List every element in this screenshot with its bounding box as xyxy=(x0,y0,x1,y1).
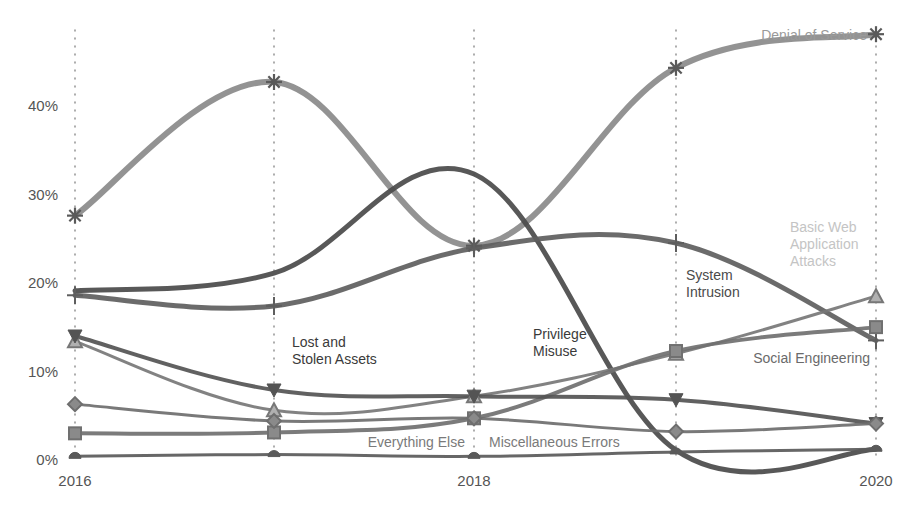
y-tick-label: 20% xyxy=(28,274,58,291)
diamond-marker-icon xyxy=(669,425,683,439)
asterisk-marker-icon xyxy=(868,26,884,42)
circle-marker-icon xyxy=(268,451,280,457)
triangle-marker-icon xyxy=(869,289,883,302)
y-tick-label: 30% xyxy=(28,186,58,203)
series-label-miscellaneous-errors: Miscellaneous Errors xyxy=(489,434,620,450)
series-line-denial-of-service xyxy=(75,34,876,246)
x-tick-label: 2018 xyxy=(457,472,490,489)
series-label-lost-and-stolen-assets: Lost andStolen Assets xyxy=(292,334,377,367)
series-lines xyxy=(75,34,876,472)
x-axis: 201620182020 xyxy=(58,472,892,489)
circle-marker-icon xyxy=(870,445,882,451)
cross-marker-icon xyxy=(466,239,482,257)
line-chart: 0%10%20%30%40% 201620182020 Denial of Se… xyxy=(0,0,918,514)
cross-marker-icon xyxy=(266,297,282,315)
series-markers xyxy=(67,26,884,458)
square-marker-icon xyxy=(69,427,81,439)
asterisk-marker-icon xyxy=(668,60,684,76)
cross-marker-icon xyxy=(668,234,684,252)
y-tick-label: 0% xyxy=(36,451,58,468)
series-line-privilege-misuse xyxy=(75,168,876,472)
y-axis: 0%10%20%30%40% xyxy=(28,97,58,468)
square-marker-icon xyxy=(870,321,882,333)
y-tick-label: 40% xyxy=(28,97,58,114)
y-tick-label: 10% xyxy=(28,363,58,380)
series-label-privilege-misuse: PrivilegeMisuse xyxy=(533,326,587,359)
x-tick-label: 2016 xyxy=(58,472,91,489)
square-marker-icon xyxy=(670,345,682,357)
series-label-everything-else: Everything Else xyxy=(368,434,465,450)
series-label-denial-of-service: Denial of Service xyxy=(761,27,867,43)
series-labels: Denial of ServiceBasic WebApplicationAtt… xyxy=(292,27,870,450)
circle-marker-icon xyxy=(468,452,480,458)
asterisk-marker-icon xyxy=(266,74,282,90)
diamond-marker-icon xyxy=(68,397,82,411)
x-tick-label: 2020 xyxy=(859,472,892,489)
asterisk-marker-icon xyxy=(67,208,83,224)
series-label-social-engineering: Social Engineering xyxy=(753,350,870,366)
circle-marker-icon xyxy=(69,452,81,458)
series-label-system-intrusion: SystemIntrusion xyxy=(686,267,740,300)
series-label-basic-web-application-attacks: Basic WebApplicationAttacks xyxy=(790,219,859,269)
